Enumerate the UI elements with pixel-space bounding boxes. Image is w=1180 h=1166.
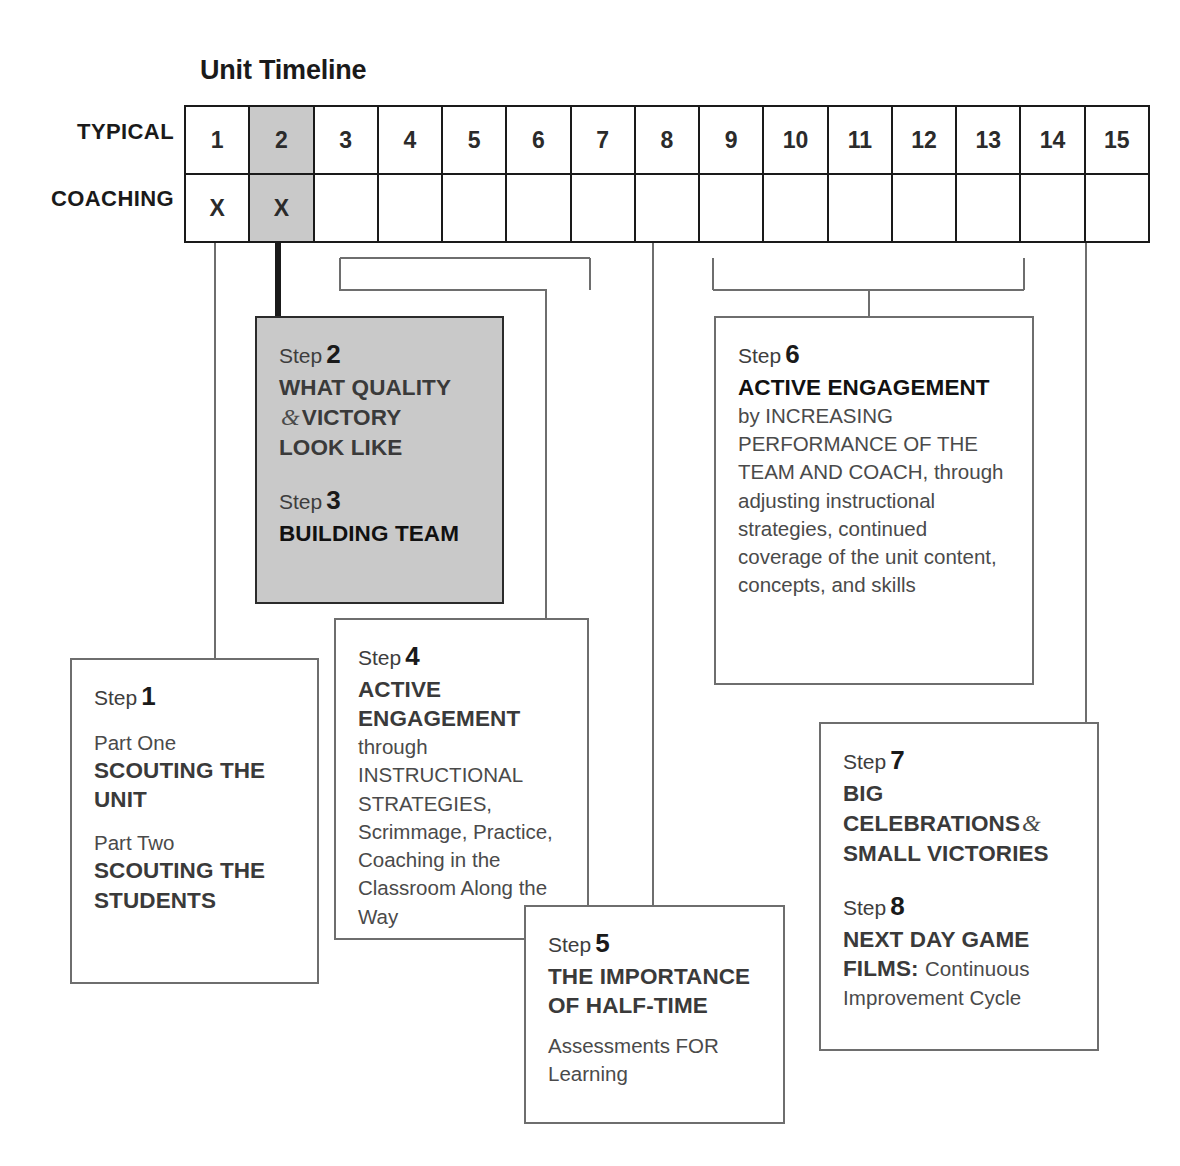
step-6-number: 6 [781,339,799,369]
step-1-part-one-label: Part One [94,729,297,757]
timeline-cell-coaching-8[interactable] [635,174,699,242]
timeline-cell-coaching-3[interactable] [314,174,378,242]
timeline-cell-typical-4[interactable]: 4 [378,106,442,174]
step-8-label: Step8 [843,890,1077,923]
step-4-number: 4 [401,641,419,671]
step-7-label: Step7 [843,744,1077,777]
timeline-cell-coaching-4[interactable] [378,174,442,242]
step-5-body: Assessments FOR Learning [548,1032,763,1089]
diagram-canvas: Unit Timeline TYPICAL COACHING 1 2 3 4 5… [0,0,1180,1166]
step-6-headline: ACTIVE ENGAGEMENT [738,373,1012,402]
step-2-headline-line1: WHAT QUALITY [279,375,451,400]
step-6-label: Step6 [738,338,1012,371]
step-3-label: Step3 [279,484,482,517]
ampersand-icon: & [279,404,302,430]
step-5-number: 5 [591,928,609,958]
timeline-cell-typical-13[interactable]: 13 [956,106,1020,174]
step-1-part-one-title: SCOUTING THE UNIT [94,756,297,815]
timeline-cell-typical-9[interactable]: 9 [699,106,763,174]
timeline-cell-typical-11[interactable]: 11 [828,106,892,174]
step-1-part-two-title: SCOUTING THE STUDENTS [94,856,297,915]
timeline-cell-typical-10[interactable]: 10 [763,106,827,174]
timeline-cell-typical-12[interactable]: 12 [892,106,956,174]
timeline-cell-coaching-9[interactable] [699,174,763,242]
step-3-word: Step [279,490,322,513]
step-2-number: 2 [322,339,340,369]
step-box-5[interactable]: Step5 THE IMPORTANCE OF HALF-TIME Assess… [524,905,785,1124]
step-8-number: 8 [886,891,904,921]
timeline-cell-typical-15[interactable]: 15 [1085,106,1149,174]
step-box-4[interactable]: Step4 ACTIVE ENGAGEMENT through INSTRUCT… [334,618,589,940]
row-label-coaching: COACHING [30,186,174,212]
timeline-cell-coaching-2[interactable]: X [249,174,313,242]
step-7-headline-line1: BIG CELEBRATIONS [843,781,1020,836]
step-4-word: Step [358,646,401,669]
spacer [279,462,482,484]
timeline-cell-coaching-14[interactable] [1020,174,1084,242]
table-row-coaching: X X [185,174,1149,242]
ampersand-icon: & [1020,810,1043,836]
step-2-headline: WHAT QUALITY &VICTORY LOOK LIKE [279,373,482,463]
step-5-word: Step [548,933,591,956]
spacer [94,815,297,827]
step-7-word: Step [843,750,886,773]
timeline-cell-typical-6[interactable]: 6 [506,106,570,174]
step-2-headline-line3: LOOK LIKE [279,435,402,460]
step-8-headline: NEXT DAY GAME FILMS: Continuous Improvem… [843,925,1077,1013]
timeline-cell-coaching-11[interactable] [828,174,892,242]
step-3-headline: BUILDING TEAM [279,519,482,548]
step-1-label: Step1 [94,680,297,713]
step-8-headline-line2: FILMS: [843,956,919,981]
step-5-headline: THE IMPORTANCE OF HALF-TIME [548,962,763,1021]
step-4-headline: ACTIVE ENGAGEMENT [358,675,567,734]
step-box-1[interactable]: Step1 Part One SCOUTING THE UNIT Part Tw… [70,658,319,984]
timeline-cell-typical-8[interactable]: 8 [635,106,699,174]
step-4-body: through INSTRUCTIONAL STRATEGIES, Scrimm… [358,733,567,931]
step-box-2-3[interactable]: Step2 WHAT QUALITY &VICTORY LOOK LIKE St… [255,316,504,604]
step-2-headline-line2: VICTORY [302,405,401,430]
timeline-cell-coaching-10[interactable] [763,174,827,242]
step-4-label: Step4 [358,640,567,673]
step-1-word: Step [94,686,137,709]
spacer [94,715,297,727]
step-5-label: Step5 [548,927,763,960]
timeline-cell-typical-5[interactable]: 5 [442,106,506,174]
step-box-7-8[interactable]: Step7 BIG CELEBRATIONS& SMALL VICTORIES … [819,722,1099,1051]
timeline-cell-typical-2[interactable]: 2 [249,106,313,174]
timeline-cell-coaching-5[interactable] [442,174,506,242]
step-8-word: Step [843,896,886,919]
timeline-cell-coaching-13[interactable] [956,174,1020,242]
step-8-headline-line1: NEXT DAY GAME [843,927,1029,952]
step-7-headline: BIG CELEBRATIONS& SMALL VICTORIES [843,779,1077,869]
row-label-typical: TYPICAL [52,119,174,145]
step-1-part-two-label: Part Two [94,829,297,857]
timeline-cell-typical-14[interactable]: 14 [1020,106,1084,174]
spacer [548,1020,763,1032]
unit-timeline-table: 1 2 3 4 5 6 7 8 9 10 11 12 13 14 15 X X [184,105,1150,243]
step-3-number: 3 [322,485,340,515]
step-7-number: 7 [886,745,904,775]
timeline-cell-coaching-1[interactable]: X [185,174,249,242]
table-row-typical: 1 2 3 4 5 6 7 8 9 10 11 12 13 14 15 [185,106,1149,174]
timeline-cell-coaching-6[interactable] [506,174,570,242]
timeline-cell-coaching-12[interactable] [892,174,956,242]
timeline-cell-typical-3[interactable]: 3 [314,106,378,174]
page-title: Unit Timeline [200,55,366,86]
step-1-number: 1 [137,681,155,711]
timeline-cell-typical-7[interactable]: 7 [571,106,635,174]
step-2-word: Step [279,344,322,367]
timeline-cell-coaching-15[interactable] [1085,174,1149,242]
spacer [843,868,1077,890]
step-2-label: Step2 [279,338,482,371]
timeline-cell-typical-1[interactable]: 1 [185,106,249,174]
step-box-6[interactable]: Step6 ACTIVE ENGAGEMENT by INCREASING PE… [714,316,1034,685]
step-7-headline-line2: SMALL VICTORIES [843,841,1049,866]
timeline-cell-coaching-7[interactable] [571,174,635,242]
step-6-word: Step [738,344,781,367]
step-6-body: by INCREASING PERFORMANCE OF THE TEAM AN… [738,402,1012,600]
